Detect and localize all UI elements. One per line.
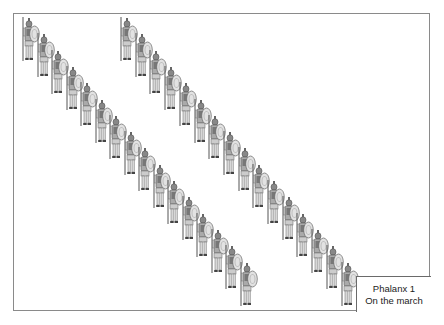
soldier-icon bbox=[238, 262, 258, 308]
caption-box: Phalanx 1 On the march bbox=[356, 276, 431, 312]
caption-title: Phalanx 1 bbox=[373, 283, 415, 295]
caption-subtitle: On the march bbox=[365, 295, 423, 307]
